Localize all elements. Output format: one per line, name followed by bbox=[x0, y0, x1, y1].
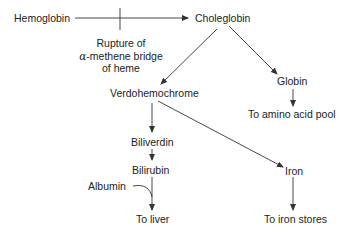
rupture-annotation: Rupture of α-methene bridge of heme bbox=[76, 37, 166, 75]
node-iron: Iron bbox=[285, 165, 303, 177]
node-globin: Globin bbox=[277, 75, 307, 87]
node-to-iron-stores: To iron stores bbox=[264, 213, 327, 225]
node-biliverdin: Biliverdin bbox=[131, 136, 174, 148]
node-hemoglobin: Hemoglobin bbox=[14, 12, 70, 24]
node-amino-acid-pool: To amino acid pool bbox=[248, 108, 336, 120]
arrow-choleglobin-verdohemochrome bbox=[161, 29, 217, 84]
annotation-line3: of heme bbox=[76, 62, 166, 75]
annotation-line2: α-methene bridge bbox=[76, 50, 166, 63]
node-verdohemochrome: Verdohemochrome bbox=[110, 87, 199, 99]
albumin-join-curve bbox=[133, 185, 152, 197]
node-to-liver: To liver bbox=[136, 213, 169, 225]
node-bilirubin: Bilirubin bbox=[132, 164, 169, 176]
node-choleglobin: Choleglobin bbox=[195, 12, 250, 24]
node-albumin: Albumin bbox=[88, 180, 126, 192]
annotation-line1: Rupture of bbox=[76, 37, 166, 50]
arrow-choleglobin-globin bbox=[229, 26, 277, 74]
